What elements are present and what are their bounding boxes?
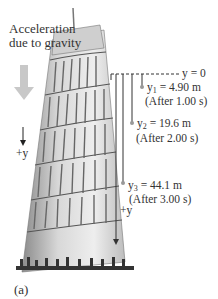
axis-label-right: +y	[120, 205, 132, 217]
axis-label-left: +y	[16, 148, 28, 160]
gravity-arrow-icon	[14, 65, 34, 100]
figure: Acceleration due to gravity +y y = 0 y1 …	[0, 0, 218, 299]
marker-1-time: (After 1.00 s)	[145, 96, 207, 108]
origin-label: y = 0	[182, 68, 206, 80]
gravity-label: Acceleration due to gravity	[9, 22, 84, 50]
marker-3-time: (After 3.00 s)	[129, 194, 191, 206]
marker-1-label: y1 = 4.90 m	[147, 82, 201, 95]
marker-3-label: y3 = 44.1 m	[128, 180, 182, 193]
marker-2-label: y2 = 19.6 m	[137, 118, 191, 131]
figure-label: (a)	[14, 283, 28, 296]
marker-2-time: (After 2.00 s)	[136, 133, 198, 145]
